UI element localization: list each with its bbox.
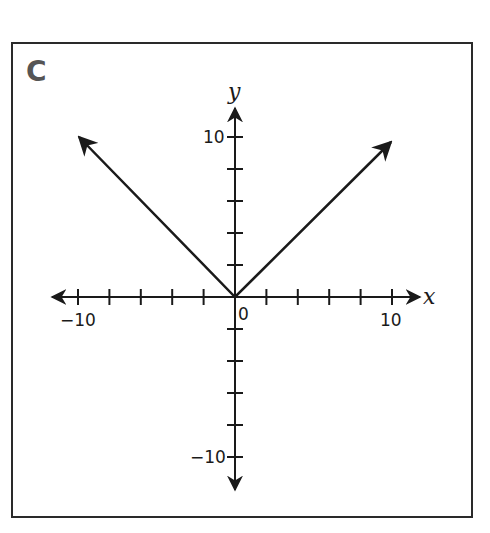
y-axis-label: y xyxy=(227,79,241,104)
y-max-label: 10 xyxy=(203,127,225,147)
coordinate-plane: x y 0 −10 10 10 −10 xyxy=(0,0,490,533)
origin-label: 0 xyxy=(238,304,249,324)
y-min-label: −10 xyxy=(190,447,226,467)
x-axis-label: x xyxy=(423,284,436,309)
x-min-label: −10 xyxy=(60,310,96,330)
x-max-label: 10 xyxy=(380,310,402,330)
